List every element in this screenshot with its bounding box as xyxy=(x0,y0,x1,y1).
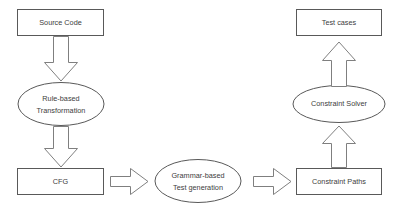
arrow-cfg-to-grammar-based xyxy=(111,169,149,195)
node-constraint-solver: Constraint Solver xyxy=(293,86,385,123)
node-test-cases: Test cases xyxy=(297,10,382,36)
node-rule-based-transformation: Rule-based Transformation xyxy=(18,83,104,126)
node-source-code: Source Code xyxy=(18,10,104,36)
constraint-solver-label: Constraint Solver xyxy=(311,99,368,108)
rule-based-transformation-label-line2: Transformation xyxy=(37,106,86,115)
source-code-label: Source Code xyxy=(39,18,82,27)
grammar-based-test-generation-label-line1: Grammar-based xyxy=(171,171,224,180)
cfg-label: CFG xyxy=(53,177,69,186)
arrow-constraint-paths-to-constraint-solver xyxy=(323,126,356,168)
grammar-based-test-generation-label-line2: Test generation xyxy=(173,183,223,192)
flow-diagram: Source Code Rule-based Transformation CF… xyxy=(0,0,397,212)
right-arrow-icon xyxy=(254,169,292,195)
up-arrow-icon xyxy=(323,42,356,87)
arrow-source-code-to-rule-based xyxy=(45,37,78,82)
test-cases-label: Test cases xyxy=(322,18,357,27)
arrow-constraint-solver-to-test-cases xyxy=(323,42,356,87)
node-grammar-based-test-generation: Grammar-based Test generation xyxy=(155,160,241,203)
down-arrow-icon xyxy=(45,37,78,82)
rule-based-transformation-label-line1: Rule-based xyxy=(42,94,79,103)
grammar-based-test-generation-ellipse xyxy=(155,160,241,203)
up-arrow-icon xyxy=(323,126,356,168)
arrow-rule-based-to-cfg xyxy=(45,127,78,168)
node-cfg: CFG xyxy=(18,169,104,195)
arrow-grammar-based-to-constraint-paths xyxy=(254,169,292,195)
constraint-paths-label: Constraint Paths xyxy=(312,177,366,186)
right-arrow-icon xyxy=(111,169,149,195)
down-arrow-icon xyxy=(45,127,78,168)
node-constraint-paths: Constraint Paths xyxy=(297,169,382,195)
rule-based-transformation-ellipse xyxy=(18,83,104,126)
